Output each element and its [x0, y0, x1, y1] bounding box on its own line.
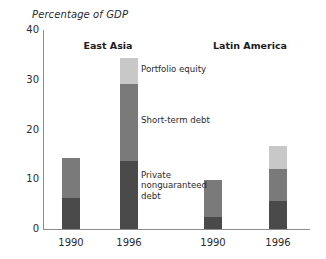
bar-east-asia-1990	[62, 158, 80, 229]
bar-segment-private-nonguaranteed-debt	[269, 201, 287, 229]
chart-title: Percentage of GDP	[32, 9, 128, 20]
x-tick-east-asia-1990: 1990	[48, 237, 94, 248]
x-tick-latin-america-1996: 1996	[255, 237, 301, 248]
x-axis-line	[43, 229, 310, 230]
y-axis-line	[43, 30, 44, 230]
y-tick-40: 40	[17, 24, 39, 35]
group-label-east-asia: East Asia	[48, 40, 168, 51]
bar-segment-short-term-debt	[269, 169, 287, 201]
y-tick-10: 10	[17, 173, 39, 184]
y-tick-30: 30	[17, 74, 39, 85]
x-tick-latin-america-1990: 1990	[190, 237, 236, 248]
bar-segment-short-term-debt	[62, 158, 80, 198]
y-tick-20: 20	[17, 124, 39, 135]
annotation-portfolio-equity: Portfolio equity	[141, 64, 206, 74]
y-tick-0: 0	[17, 223, 39, 234]
bar-segment-private-nonguaranteed-debt	[120, 161, 138, 229]
bar-segment-portfolio-equity	[120, 58, 138, 84]
bar-east-asia-1996	[120, 58, 138, 229]
bar-segment-private-nonguaranteed-debt	[62, 198, 80, 229]
bar-segment-short-term-debt	[120, 84, 138, 161]
chart-canvas: Percentage of GDP 40 30 20 10 0 East Asi…	[0, 0, 326, 259]
annotation-private-nonguaranteed-debt: Private nonguaranteed debt	[141, 170, 207, 201]
annotation-short-term-debt: Short-term debt	[141, 115, 210, 125]
bar-latin-america-1996	[269, 146, 287, 229]
bar-segment-portfolio-equity	[269, 146, 287, 169]
bar-segment-private-nonguaranteed-debt	[204, 217, 222, 229]
group-label-latin-america: Latin America	[190, 40, 310, 51]
x-tick-east-asia-1996: 1996	[106, 237, 152, 248]
